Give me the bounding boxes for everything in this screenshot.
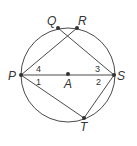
- label-p: P: [8, 69, 16, 83]
- label-q: Q: [47, 14, 56, 28]
- angle-label-4: 4: [36, 64, 41, 74]
- circle-diagram: P Q R S T A 4 1 3 2: [0, 0, 137, 146]
- point-a-center: [66, 72, 70, 76]
- angle-label-3: 3: [95, 64, 100, 74]
- segment-pt: [21, 75, 84, 118]
- angle-label-2: 2: [96, 77, 101, 87]
- label-t: T: [80, 120, 89, 134]
- label-s: S: [117, 69, 125, 83]
- point-p: [19, 73, 23, 77]
- label-a: A: [63, 77, 72, 91]
- point-q: [56, 26, 60, 30]
- label-r: R: [78, 14, 87, 28]
- angle-label-1: 1: [36, 77, 41, 87]
- segment-pr: [21, 28, 77, 75]
- segment-qs: [58, 28, 114, 75]
- point-s: [112, 73, 116, 77]
